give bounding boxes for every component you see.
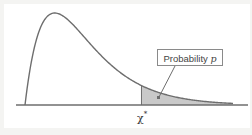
chi-superscript: * xyxy=(144,110,148,118)
leader-line-endpoint xyxy=(157,96,160,99)
probability-variable: p xyxy=(210,53,216,64)
chi-symbol: χ xyxy=(137,112,144,125)
probability-annotation-box: Probability p xyxy=(157,49,223,66)
chi-square-diagram xyxy=(0,0,252,135)
annotation-leader-line xyxy=(159,66,175,97)
critical-value-label: χ* xyxy=(137,111,147,125)
probability-label: Probability xyxy=(163,53,207,64)
